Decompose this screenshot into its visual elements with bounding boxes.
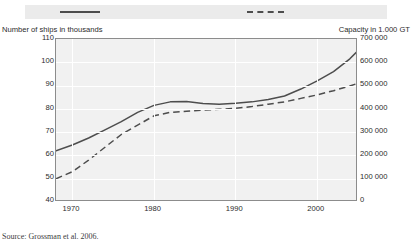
left-tick-label: 40 bbox=[4, 196, 54, 204]
gridline-vertical bbox=[235, 39, 236, 200]
left-tick-label: 110 bbox=[4, 34, 54, 42]
right-tick-label: 0 bbox=[360, 196, 412, 204]
right-tick-label: 600 000 bbox=[360, 57, 412, 65]
gridline-horizontal bbox=[56, 109, 356, 110]
left-tick-label: 90 bbox=[4, 80, 54, 88]
gridline-vertical bbox=[154, 39, 155, 200]
gridline-horizontal bbox=[56, 132, 356, 133]
gridline-horizontal bbox=[56, 62, 356, 63]
chart-legend bbox=[25, 5, 387, 19]
right-tick-label: 200 000 bbox=[360, 150, 412, 158]
left-tick-label: 80 bbox=[4, 104, 54, 112]
right-tick-label: 500 000 bbox=[360, 80, 412, 88]
legend-item-number-of-ships bbox=[43, 5, 223, 19]
x-tick-label: 1990 bbox=[214, 205, 254, 213]
left-tick-label: 50 bbox=[4, 173, 54, 181]
source-note: Source: Grossman et al. 2006. bbox=[2, 232, 98, 241]
left-tick-label: 60 bbox=[4, 150, 54, 158]
left-tick-label: 70 bbox=[4, 127, 54, 135]
left-tick-label: 100 bbox=[4, 57, 54, 65]
line-number-of-ships bbox=[56, 51, 357, 151]
right-tick-label: 700 000 bbox=[360, 34, 412, 42]
legend-item-capacity bbox=[230, 5, 380, 19]
x-tick-label: 1980 bbox=[133, 205, 173, 213]
gridline-vertical bbox=[317, 39, 318, 200]
legend-swatch-solid-line bbox=[60, 11, 100, 13]
right-tick-label: 400 000 bbox=[360, 104, 412, 112]
gridline-vertical bbox=[72, 39, 73, 200]
x-tick-label: 2000 bbox=[296, 205, 336, 213]
x-tick-label: 1970 bbox=[51, 205, 91, 213]
footer-divider bbox=[0, 228, 413, 229]
series-lines bbox=[56, 39, 357, 201]
gridline-horizontal bbox=[56, 179, 356, 180]
gridline-horizontal bbox=[56, 155, 356, 156]
chart-figure: Development of world merchant fleet Numb… bbox=[0, 0, 413, 246]
clipped-chart-title: Development of world merchant fleet bbox=[0, 0, 413, 1]
right-tick-label: 300 000 bbox=[360, 127, 412, 135]
plot-area bbox=[55, 38, 357, 201]
right-tick-label: 100 000 bbox=[360, 173, 412, 181]
legend-swatch-dashed-line bbox=[247, 11, 284, 13]
gridline-horizontal bbox=[56, 86, 356, 87]
